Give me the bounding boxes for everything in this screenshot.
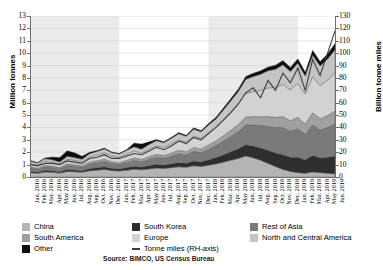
- x-tick-label: Jun. 2017: [159, 179, 166, 203]
- legend-item[interactable]: Rest of Asia: [250, 221, 351, 232]
- x-tick-label: Apr. 2019: [323, 179, 330, 204]
- legend-item[interactable]: Other: [22, 243, 83, 254]
- x-tick-label: May 2018: [241, 179, 248, 204]
- x-tick-label: Feb. 2016: [40, 179, 47, 204]
- legend-label: North and Central America: [262, 233, 351, 242]
- x-tick-label: Oct. 2018: [278, 179, 285, 203]
- x-tick-label: Jan. 2019: [300, 179, 307, 203]
- x-tick-label: Feb. 2018: [218, 179, 225, 204]
- x-tick-label: May 2016: [62, 179, 69, 204]
- legend-color-swatch: [22, 245, 30, 253]
- y-tick-label: 20: [339, 148, 365, 156]
- y-tick-label: 60: [339, 99, 365, 107]
- x-tick-label: Sep. 2017: [181, 179, 188, 204]
- x-tick-label: Mar. 2019: [315, 179, 322, 204]
- y-tick-mark: [27, 152, 30, 153]
- x-tick-label: Sep. 2018: [271, 179, 278, 204]
- x-tick-label: Aug. 2017: [174, 179, 181, 205]
- x-tick-label: Jan. 2018: [211, 179, 218, 203]
- y-axis-left-line: [30, 16, 31, 178]
- x-tick-label: Feb. 2017: [129, 179, 136, 204]
- y-tick-mark: [336, 115, 339, 116]
- x-tick-label: Jun. 2016: [70, 179, 77, 203]
- legend-label: South Korea: [144, 222, 186, 231]
- chart-title: 2016-2019: [0, 0, 380, 2]
- y-tick-mark: [336, 53, 339, 54]
- y-tick-label: 1: [0, 161, 26, 169]
- y-tick-mark: [27, 78, 30, 79]
- source-note: Source: BIMCO, US Census Bureau: [103, 255, 214, 262]
- x-tick-label: May 2019: [330, 179, 337, 204]
- legend-item[interactable]: South Korea: [132, 221, 219, 232]
- legend-item[interactable]: North and Central America: [250, 232, 351, 243]
- y-tick-label: 80: [339, 74, 365, 82]
- x-tick-label: Nov. 2017: [196, 179, 203, 205]
- x-tick-label: Jul. 2016: [77, 179, 84, 202]
- x-tick-label: Dec. 2016: [114, 179, 121, 204]
- x-tick-label: Jan. 2016: [33, 179, 40, 203]
- y-tick-mark: [27, 115, 30, 116]
- y-axis-right-title: Billion tonne miles: [374, 27, 383, 127]
- y-tick-label: 0: [0, 173, 26, 181]
- y-tick-mark: [27, 41, 30, 42]
- x-tick-label: Apr. 2017: [144, 179, 151, 204]
- legend-label: Other: [34, 244, 53, 253]
- x-tick-label: Aug. 2016: [85, 179, 92, 205]
- legend-color-swatch: [132, 223, 140, 231]
- legend-item[interactable]: South America: [22, 232, 83, 243]
- y-tick-label: 30: [339, 136, 365, 144]
- legend-color-swatch: [22, 223, 30, 231]
- legend-item[interactable]: China: [22, 221, 83, 232]
- x-tick-label: Jul. 2018: [256, 179, 263, 202]
- plot-area: [30, 16, 335, 177]
- y-tick-mark: [336, 16, 339, 17]
- y-tick-label: 13: [0, 12, 26, 20]
- legend-label: Tonne miles (RH-axis): [144, 244, 219, 253]
- legend-column-2: Rest of AsiaNorth and Central America: [250, 221, 351, 243]
- y-tick-label: 40: [339, 123, 365, 131]
- x-tick-label: Dec. 2018: [293, 179, 300, 204]
- y-tick-mark: [336, 165, 339, 166]
- area-chart-svg: [30, 16, 335, 177]
- y-tick-mark: [27, 16, 30, 17]
- legend-label: Europe: [144, 233, 169, 242]
- x-tick-label: Apr. 2018: [233, 179, 240, 204]
- y-tick-label: 120: [339, 24, 365, 32]
- y-tick-mark: [27, 28, 30, 29]
- x-tick-label: Oct. 2016: [99, 179, 106, 203]
- y-axis-left-title: Million tonnes: [8, 37, 17, 127]
- chart-legend: ChinaSouth AmericaOther South KoreaEurop…: [22, 221, 362, 255]
- legend-color-swatch: [22, 234, 30, 242]
- x-tick-label: Feb. 2019: [308, 179, 315, 204]
- x-tick-label: Jul. 2017: [166, 179, 173, 202]
- y-tick-mark: [336, 28, 339, 29]
- y-tick-mark: [336, 140, 339, 141]
- x-tick-label: Apr. 2016: [55, 179, 62, 204]
- x-tick-label: Jun. 2019: [338, 179, 345, 203]
- x-tick-label: Nov. 2016: [107, 179, 114, 205]
- y-tick-label: 2: [0, 148, 26, 156]
- y-tick-mark: [336, 78, 339, 79]
- y-tick-label: 70: [339, 86, 365, 94]
- legend-color-swatch: [250, 234, 258, 242]
- y-tick-label: 110: [339, 37, 365, 45]
- legend-label: Rest of Asia: [262, 222, 303, 231]
- legend-item[interactable]: Tonne miles (RH-axis): [132, 243, 219, 254]
- y-tick-mark: [27, 53, 30, 54]
- y-tick-label: 50: [339, 111, 365, 119]
- legend-color-swatch: [250, 223, 258, 231]
- x-tick-label: Mar. 2016: [47, 179, 54, 204]
- y-tick-mark: [336, 103, 339, 104]
- y-tick-label: 100: [339, 49, 365, 57]
- legend-column-0: ChinaSouth AmericaOther: [22, 221, 83, 254]
- legend-color-swatch: [132, 234, 140, 242]
- legend-item[interactable]: Europe: [132, 232, 219, 243]
- y-tick-mark: [27, 90, 30, 91]
- x-tick-label: Sep. 2016: [92, 179, 99, 204]
- y-tick-mark: [336, 127, 339, 128]
- x-tick-label: Oct. 2017: [189, 179, 196, 203]
- y-tick-mark: [27, 103, 30, 104]
- y-tick-label: 90: [339, 62, 365, 70]
- x-axis-labels: Jan. 2016Feb. 2016Mar. 2016Apr. 2016May …: [30, 179, 336, 219]
- y-tick-mark: [27, 66, 30, 67]
